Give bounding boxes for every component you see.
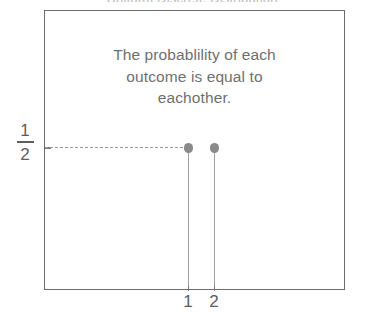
stem-line-1	[188, 148, 190, 289]
x-axis-tick-mark-1	[188, 286, 190, 291]
fraction-denominator: 2	[12, 145, 38, 163]
stem-line-2	[214, 148, 216, 289]
fraction-numerator: 1	[12, 122, 38, 140]
annotation-text: The probablility of each outcome is equa…	[64, 44, 325, 109]
y-axis-tick-label-one-half: 1 2	[12, 122, 38, 163]
annotation-line-3: eachother.	[64, 87, 325, 109]
chart-title: Uniform Discrete Distribution	[0, 0, 384, 2]
data-point-1	[184, 143, 194, 153]
annotation-line-1: The probablility of each	[64, 44, 325, 66]
data-point-2	[210, 143, 220, 153]
probability-distribution-figure: Uniform Discrete Distribution The probab…	[0, 0, 384, 322]
annotation-line-2: outcome is equal to	[64, 66, 325, 88]
x-axis-tick-mark-2	[214, 286, 216, 291]
x-axis-tick-label-2: 2	[199, 292, 229, 312]
dashed-guide-line	[45, 147, 188, 148]
fraction-bar	[17, 141, 34, 143]
